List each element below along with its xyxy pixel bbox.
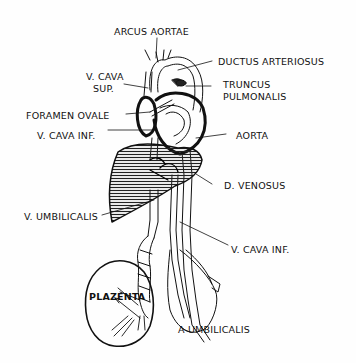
label-truncus-1: TRUNCUS [223, 79, 270, 90]
label-v-cava-inf-lower: V. CAVA INF. [231, 244, 290, 255]
label-foramen-ovale: FORAMEN OVALE [26, 110, 110, 121]
label-v-cava-inf-upper: V. CAVA INF. [37, 130, 96, 141]
fetal-circulation-diagram: ARCUS AORTAE DUCTUS ARTERIOSUS V. CAVA S… [0, 0, 356, 363]
label-aorta: AORTA [236, 130, 268, 141]
liver [110, 144, 202, 222]
diagram-drawing [0, 0, 356, 363]
iliac-loop [168, 250, 220, 332]
label-v-umbilicalis: V. UMBILICALIS [24, 211, 98, 222]
placenta [86, 261, 154, 347]
umbilical-cord [137, 236, 154, 318]
label-arcus-aortae: ARCUS AORTAE [114, 26, 189, 37]
label-v-cava-sup-2: SUP. [93, 83, 114, 94]
label-d-venosus: D. VENOSUS [224, 180, 285, 191]
label-v-cava-sup-1: V. CAVA [86, 71, 124, 82]
truncus-pulmonalis [176, 80, 186, 86]
v-cava-sup [144, 72, 152, 96]
label-plazenta: PLAZENTA [89, 291, 145, 302]
label-a-umbilicalis: A UMBILICALIS [178, 324, 250, 335]
label-truncus-2: PULMONALIS [223, 91, 286, 102]
label-ductus-arteriosus: DUCTUS ARTERIOSUS [218, 56, 324, 67]
